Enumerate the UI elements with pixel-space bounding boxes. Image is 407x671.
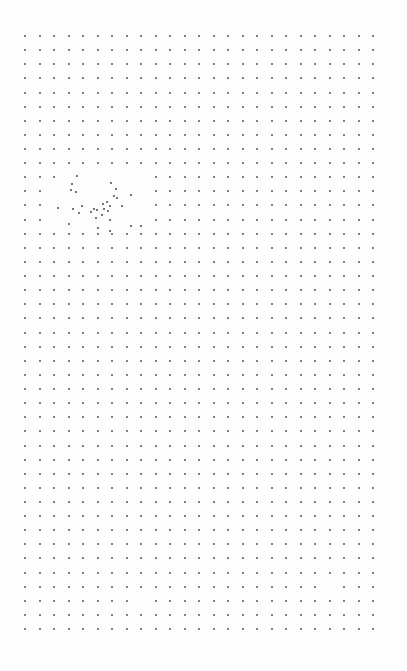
grid-dot (198, 289, 200, 291)
grid-dot (39, 614, 41, 616)
grid-dot (256, 35, 258, 37)
grid-dot (184, 190, 186, 192)
grid-dot (24, 459, 26, 461)
grid-dot (256, 233, 258, 235)
grid-dot (271, 572, 273, 574)
grid-dot (227, 600, 229, 602)
grid-dot (227, 529, 229, 531)
grid-dot (53, 247, 55, 249)
grid-dot (198, 430, 200, 432)
grid-dot (242, 77, 244, 79)
grid-dot (53, 317, 55, 319)
grid-dot (256, 49, 258, 51)
grid-dot (140, 148, 142, 150)
grid-dot (68, 572, 70, 574)
grid-dot (285, 275, 287, 277)
grid-dot (68, 600, 70, 602)
grid-dot (169, 289, 171, 291)
grid-dot (213, 233, 215, 235)
grid-dot (343, 501, 345, 503)
grid-dot (97, 586, 99, 588)
grid-dot (314, 388, 316, 390)
grid-dot (242, 416, 244, 418)
grid-dot (68, 162, 70, 164)
grid-dot (140, 77, 142, 79)
grid-dot (227, 77, 229, 79)
grid-dot (285, 303, 287, 305)
grid-dot (256, 303, 258, 305)
grid-dot (358, 332, 360, 334)
grid-dot (82, 572, 84, 574)
grid-dot (358, 49, 360, 51)
grid-dot (314, 233, 316, 235)
grid-dot (198, 614, 200, 616)
grid-dot (329, 176, 331, 178)
grid-dot (169, 374, 171, 376)
grid-dot (140, 374, 142, 376)
grid-dot (271, 614, 273, 616)
grid-dot (271, 77, 273, 79)
grid-dot (140, 162, 142, 164)
grid-dot (372, 459, 374, 461)
grid-dot (213, 586, 215, 588)
grid-dot (169, 346, 171, 348)
grid-dot (82, 106, 84, 108)
grid-dot (68, 515, 70, 517)
grid-dot (343, 388, 345, 390)
grid-dot (213, 374, 215, 376)
grid-dot (169, 35, 171, 37)
grid-dot (24, 529, 26, 531)
grid-dot (358, 388, 360, 390)
grid-dot (53, 176, 55, 178)
grid-dot (372, 49, 374, 51)
scattered-dot (109, 219, 111, 221)
grid-dot (358, 317, 360, 319)
grid-dot (300, 628, 302, 630)
grid-dot (126, 628, 128, 630)
grid-dot (256, 77, 258, 79)
grid-dot (358, 543, 360, 545)
grid-dot (111, 275, 113, 277)
grid-dot (53, 473, 55, 475)
grid-dot (140, 317, 142, 319)
grid-dot (39, 628, 41, 630)
grid-dot (227, 134, 229, 136)
grid-dot (68, 402, 70, 404)
grid-dot (343, 416, 345, 418)
grid-dot (111, 487, 113, 489)
grid-dot (111, 63, 113, 65)
grid-dot (155, 388, 157, 390)
grid-dot (97, 303, 99, 305)
scattered-dot (95, 217, 97, 219)
grid-dot (53, 459, 55, 461)
grid-dot (271, 275, 273, 277)
grid-dot (140, 586, 142, 588)
grid-dot (53, 275, 55, 277)
grid-dot (155, 204, 157, 206)
grid-dot (198, 374, 200, 376)
grid-dot (256, 360, 258, 362)
grid-dot (300, 190, 302, 192)
grid-dot (256, 501, 258, 503)
grid-dot (227, 35, 229, 37)
grid-dot (126, 162, 128, 164)
grid-dot (271, 63, 273, 65)
grid-dot (242, 134, 244, 136)
grid-dot (213, 289, 215, 291)
grid-dot (285, 346, 287, 348)
grid-dot (343, 487, 345, 489)
grid-dot (198, 63, 200, 65)
grid-dot (285, 501, 287, 503)
grid-dot (227, 92, 229, 94)
scattered-dot (90, 211, 92, 213)
grid-dot (169, 600, 171, 602)
grid-dot (285, 204, 287, 206)
scattered-dot (103, 208, 105, 210)
grid-dot (97, 473, 99, 475)
grid-dot (82, 445, 84, 447)
grid-dot (372, 430, 374, 432)
grid-dot (126, 487, 128, 489)
grid-dot (155, 190, 157, 192)
grid-dot (358, 487, 360, 489)
grid-dot (82, 416, 84, 418)
